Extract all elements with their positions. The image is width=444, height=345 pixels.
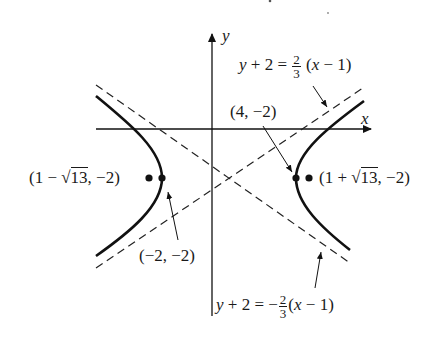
focus-left-point bbox=[145, 174, 152, 181]
focus-right-point bbox=[305, 174, 312, 181]
fraction-two-thirds: 23 bbox=[292, 53, 301, 80]
focus-left-label: (1 − √13, −2) bbox=[29, 169, 120, 186]
asymptote-positive-equation: y + 2 = 23 (x − 1) bbox=[239, 53, 351, 80]
y-axis-label: y bbox=[222, 27, 230, 44]
pointer-asymptote-positive bbox=[313, 86, 327, 107]
x-axis-label: x bbox=[361, 110, 369, 127]
focus-right-label: (1 + √13, −2) bbox=[319, 169, 410, 186]
fraction-two-thirds: 23 bbox=[279, 293, 288, 320]
pointer-vertex-right bbox=[263, 126, 292, 172]
vertex-right-point bbox=[292, 174, 299, 181]
asymptote-negative-equation: y + 2 = −23(x − 1) bbox=[216, 293, 334, 320]
pointer-vertex-left bbox=[168, 192, 178, 240]
scan-artifact bbox=[327, 12, 329, 14]
equation-lhs: + 2 = bbox=[247, 55, 292, 74]
asymptote-line-negative-slope bbox=[96, 85, 350, 263]
vertex-left-label: (−2, −2) bbox=[139, 247, 195, 264]
pointer-asymptote-negative bbox=[315, 252, 321, 288]
scan-artifact bbox=[269, 0, 272, 2]
vertex-left-point bbox=[158, 174, 165, 181]
vertex-right-label: (4, −2) bbox=[230, 103, 276, 120]
